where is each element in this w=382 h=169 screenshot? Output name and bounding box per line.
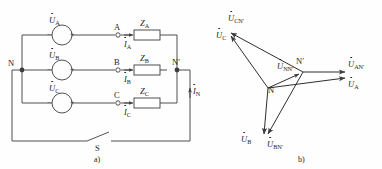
impedance-b-box (134, 65, 160, 75)
terminal-c-node (116, 101, 120, 105)
phasor-ubn-prime (268, 72, 303, 134)
caption-panel-a: a) (94, 155, 100, 164)
caption-panel-b: b) (298, 155, 305, 164)
source-b-circle (52, 60, 72, 80)
label-impedance-b: ZB (140, 54, 149, 63)
label-source-c: UC (49, 84, 59, 93)
label-current-a: IA (124, 40, 131, 49)
node-n-dot (20, 68, 25, 73)
label-node-n-phasor: N (268, 86, 274, 95)
label-switch-s: S (95, 144, 100, 153)
switch-blade (87, 132, 109, 141)
impedance-a-box (134, 30, 160, 40)
source-a-circle (52, 25, 72, 45)
figure-container: UA − + UB − + UC − + A B C ZA ZB ZC IA I… (0, 0, 382, 169)
label-node-n-prime: N′ (172, 58, 180, 67)
label-phasor-u-a: UA (348, 80, 359, 89)
label-phasor-u-cn-prime: UCN′ (228, 14, 244, 23)
panel-a-circuit (12, 25, 190, 141)
phasor-uc (231, 36, 268, 88)
label-phasor-u-b: UB (241, 135, 251, 144)
label-phasor-u-c: UC (216, 31, 226, 40)
sign-b-minus: − (47, 66, 52, 74)
source-c-circle (52, 93, 72, 113)
sign-b-plus: + (70, 66, 75, 74)
panel-b-phasors (231, 33, 345, 134)
label-current-b: IB (124, 75, 131, 84)
impedance-c-box (134, 98, 160, 108)
label-current-c: IC (124, 108, 131, 117)
terminal-a-node (116, 33, 120, 37)
sign-c-minus: − (47, 99, 52, 107)
label-source-b: UB (49, 51, 59, 60)
branch-a (22, 25, 177, 45)
terminal-b-node (116, 68, 120, 72)
label-current-n: IN (193, 87, 200, 96)
label-phasor-u-nn-prime: UNN′ (277, 62, 293, 71)
label-impedance-a: ZA (140, 19, 149, 28)
branch-c (22, 93, 177, 113)
label-terminal-c: C (114, 91, 120, 100)
label-source-a: UA (49, 16, 60, 25)
label-phasor-u-bn-prime: UBN′ (267, 140, 283, 149)
sign-a-plus: + (70, 31, 75, 39)
label-terminal-b: B (114, 58, 120, 67)
sign-a-minus: − (47, 31, 52, 39)
label-phasor-u-an-prime: UAN′ (348, 60, 364, 69)
label-terminal-a: A (114, 23, 120, 32)
label-impedance-c: ZC (140, 87, 149, 96)
sign-c-plus: + (70, 99, 75, 107)
label-node-n-prime-phasor: N′ (296, 57, 304, 66)
label-node-n: N (8, 59, 14, 68)
